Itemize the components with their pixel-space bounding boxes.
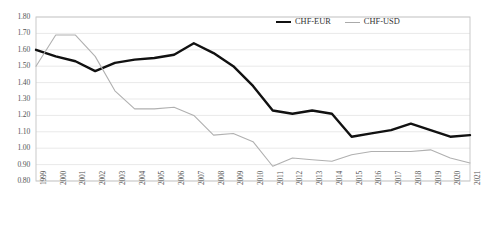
legend-swatch-chf-usd-icon bbox=[345, 22, 360, 23]
y-axis-tick-label: 1.80 bbox=[0, 12, 30, 21]
x-axis-tick-label: 2013 bbox=[315, 171, 324, 185]
x-axis-tick-label: 2018 bbox=[414, 171, 423, 185]
x-axis-tick-label: 2020 bbox=[453, 171, 462, 185]
x-axis-tick-label: 2012 bbox=[295, 171, 304, 185]
x-axis-tick-label: 2004 bbox=[138, 171, 147, 185]
y-axis-tick-label: 0.80 bbox=[0, 176, 30, 185]
y-axis-tick-label: 1.60 bbox=[0, 45, 30, 54]
y-axis-tick-label: 1.30 bbox=[0, 94, 30, 103]
series-line-chf-eur bbox=[36, 43, 470, 136]
exchange-rate-line-chart: 1.801.701.601.501.401.301.201.101.000.90… bbox=[0, 0, 491, 227]
legend-swatch-chf-eur-icon bbox=[276, 21, 291, 23]
x-axis-tick-label: 2021 bbox=[473, 171, 482, 185]
x-axis-tick-label: 2019 bbox=[434, 171, 443, 185]
gridlines bbox=[36, 17, 470, 181]
x-axis-tick-label: 2002 bbox=[98, 171, 107, 185]
y-axis-tick-label: 0.90 bbox=[0, 160, 30, 169]
chart-plot-area bbox=[0, 0, 491, 227]
x-axis-tick-label: 1999 bbox=[39, 171, 48, 185]
y-axis-tick-label: 1.50 bbox=[0, 61, 30, 70]
x-axis-tick-label: 2016 bbox=[374, 171, 383, 185]
series-layer bbox=[36, 35, 470, 166]
x-axis-tick-label: 2015 bbox=[355, 171, 364, 185]
x-axis-tick-label: 2006 bbox=[177, 171, 186, 185]
x-axis-tick-label: 2003 bbox=[118, 171, 127, 185]
x-axis-tick-label: 2000 bbox=[59, 171, 68, 185]
y-axis-tick-label: 1.40 bbox=[0, 78, 30, 87]
chart-legend: CHF-EUR CHF-USD bbox=[276, 18, 400, 26]
x-axis-tick-label: 2008 bbox=[217, 171, 226, 185]
y-axis-tick-label: 1.00 bbox=[0, 143, 30, 152]
legend-label-chf-eur: CHF-EUR bbox=[295, 18, 331, 26]
x-axis-tick-label: 2005 bbox=[157, 171, 166, 185]
x-axis-tick-label: 2001 bbox=[78, 171, 87, 185]
x-axis-tick-label: 2007 bbox=[197, 171, 206, 185]
x-axis-tick-label: 2014 bbox=[335, 171, 344, 185]
x-axis-tick-label: 2009 bbox=[236, 171, 245, 185]
x-axis-tick-label: 2010 bbox=[256, 171, 265, 185]
y-axis-tick-label: 1.70 bbox=[0, 28, 30, 37]
x-axis-tick-label: 2017 bbox=[394, 171, 403, 185]
series-line-chf-usd bbox=[36, 35, 470, 166]
x-axis-tick-label: 2011 bbox=[276, 171, 285, 185]
y-axis-tick-label: 1.10 bbox=[0, 127, 30, 136]
legend-label-chf-usd: CHF-USD bbox=[364, 18, 400, 26]
y-axis-tick-label: 1.20 bbox=[0, 110, 30, 119]
